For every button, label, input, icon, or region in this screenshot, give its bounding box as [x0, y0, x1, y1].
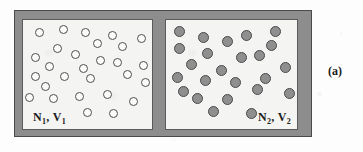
- gas-particle: [83, 108, 92, 117]
- gas-particle: [280, 62, 291, 73]
- gas-particle: [141, 78, 150, 87]
- chamber-right-label-v-sub: 2: [287, 117, 291, 126]
- gas-particle: [241, 30, 252, 41]
- gas-particle: [53, 44, 62, 53]
- chamber-right-label-n: N: [258, 110, 267, 124]
- gas-particle: [230, 77, 241, 88]
- chamber-left-label-v-sub: 1: [62, 117, 66, 126]
- gas-particle: [266, 40, 277, 51]
- gas-particle: [198, 32, 209, 43]
- gas-particle: [108, 31, 117, 40]
- gas-particle: [270, 26, 281, 37]
- gas-particle: [49, 94, 58, 103]
- gas-particle: [31, 53, 40, 62]
- gas-particle: [71, 50, 80, 59]
- gas-particle: [41, 82, 50, 91]
- gas-particle: [208, 106, 219, 117]
- chamber-left-label-v: , V: [46, 110, 61, 124]
- gas-particle: [284, 88, 295, 99]
- gas-particle: [236, 52, 247, 63]
- panel-caption: (a): [328, 64, 342, 79]
- gas-particle: [174, 43, 185, 54]
- chamber-left: N1, V1: [22, 19, 153, 130]
- gas-particle: [252, 84, 263, 95]
- gas-particle: [109, 109, 118, 118]
- gas-particle: [172, 72, 183, 83]
- gas-chamber-figure: N1, V1 N2, V2 (a): [0, 0, 363, 152]
- gas-particle: [93, 39, 102, 48]
- gas-particle: [75, 92, 84, 101]
- chamber-right-label-v: , V: [271, 110, 286, 124]
- gas-particle: [174, 26, 185, 37]
- gas-particle: [113, 58, 122, 67]
- gas-particle: [123, 70, 132, 79]
- gas-particle: [246, 108, 257, 119]
- gas-particle: [35, 28, 44, 37]
- gas-particle: [139, 61, 148, 70]
- gas-particle: [186, 59, 197, 70]
- gas-particle: [216, 65, 227, 76]
- gas-particle: [25, 93, 34, 102]
- gas-particle: [81, 28, 90, 37]
- gas-particle: [86, 74, 95, 83]
- gas-particle: [254, 50, 265, 61]
- gas-particle: [96, 56, 105, 65]
- gas-particle: [222, 36, 233, 47]
- gas-particle: [137, 34, 146, 43]
- gas-particle: [178, 86, 189, 97]
- gas-particle: [79, 64, 88, 73]
- gas-particle: [60, 72, 69, 81]
- gas-particle: [260, 73, 271, 84]
- gas-particle: [31, 72, 40, 81]
- gas-particle: [192, 93, 203, 104]
- gas-particle: [45, 62, 54, 71]
- gas-vessel-container: N1, V1 N2, V2: [14, 10, 312, 137]
- chamber-left-label: N1, V1: [33, 110, 66, 126]
- gas-particle: [222, 94, 233, 105]
- chamber-right: N2, V2: [165, 19, 298, 130]
- chamber-right-label: N2, V2: [258, 110, 291, 126]
- gas-particle: [202, 48, 213, 59]
- gas-particle: [129, 97, 138, 106]
- chamber-left-label-n: N: [33, 110, 42, 124]
- gas-particle: [59, 25, 68, 34]
- gas-particle: [103, 90, 112, 99]
- gas-particle: [200, 75, 211, 86]
- gas-particle: [118, 42, 127, 51]
